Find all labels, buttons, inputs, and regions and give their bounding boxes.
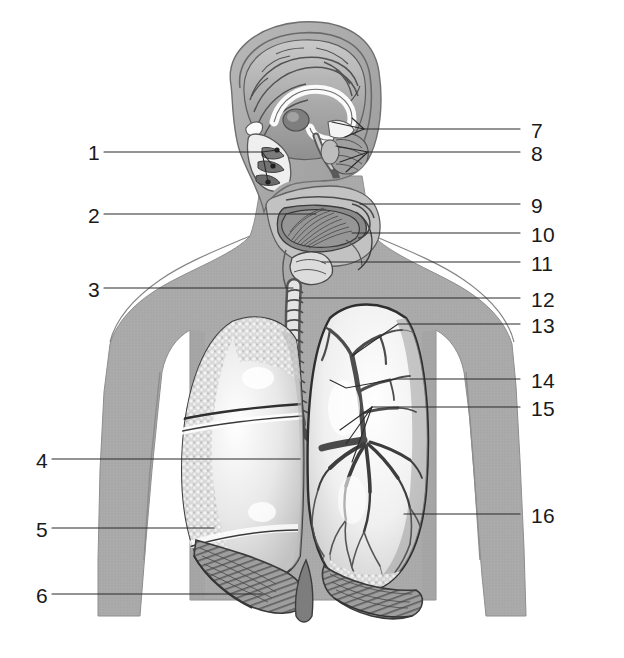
anatomical-figure: 1 2 3 4 5 6 7 8 9 10 11 12 13 14 15 16 [0, 0, 624, 658]
label-15[interactable]: 15 [531, 398, 555, 419]
label-16[interactable]: 16 [531, 505, 555, 526]
label-4[interactable]: 4 [26, 450, 48, 471]
label-3[interactable]: 3 [78, 279, 100, 300]
label-5[interactable]: 5 [26, 519, 48, 540]
label-1[interactable]: 1 [78, 142, 100, 163]
label-12[interactable]: 12 [531, 289, 555, 310]
label-9[interactable]: 9 [531, 195, 543, 216]
label-13[interactable]: 13 [531, 315, 555, 336]
label-14[interactable]: 14 [531, 370, 555, 391]
label-7[interactable]: 7 [531, 120, 543, 141]
label-8[interactable]: 8 [531, 143, 543, 164]
lung-right-bronchial-tree [302, 305, 428, 594]
label-2[interactable]: 2 [78, 205, 100, 226]
label-11[interactable]: 11 [531, 253, 553, 274]
label-10[interactable]: 10 [531, 224, 555, 245]
label-6[interactable]: 6 [26, 585, 48, 606]
